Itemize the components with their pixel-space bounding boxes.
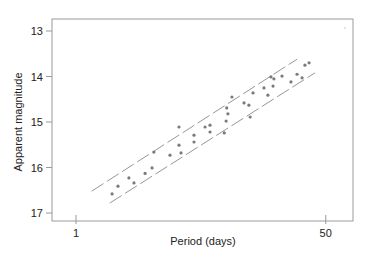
lower-bound-line xyxy=(110,73,315,203)
data-point xyxy=(295,73,298,76)
data-point xyxy=(223,131,226,134)
upper-bound-line xyxy=(92,59,297,191)
data-point xyxy=(247,104,250,107)
data-point xyxy=(303,64,306,67)
x-axis-title: Period (days) xyxy=(170,235,235,247)
data-point xyxy=(192,134,195,137)
x-tick-label: 50 xyxy=(320,227,332,239)
data-point xyxy=(208,130,211,133)
data-point xyxy=(272,77,275,80)
data-points xyxy=(110,61,310,195)
data-point xyxy=(242,101,245,104)
y-tick-label: 14 xyxy=(31,71,43,83)
data-point xyxy=(179,151,182,154)
data-point xyxy=(150,166,153,169)
data-point xyxy=(127,176,130,179)
y-tick-label: 15 xyxy=(31,116,43,128)
data-point xyxy=(226,112,229,115)
data-point xyxy=(208,124,211,127)
y-tick-label: 13 xyxy=(31,25,43,37)
data-point xyxy=(230,95,233,98)
data-point xyxy=(271,84,274,87)
y-tick-label: 16 xyxy=(31,162,43,174)
data-point xyxy=(266,94,269,97)
x-tick-label: 1 xyxy=(73,227,79,239)
data-point xyxy=(289,80,292,83)
data-point xyxy=(251,91,254,94)
data-point xyxy=(269,75,272,78)
y-axis-ticks: 1314151617 xyxy=(31,25,52,219)
data-point xyxy=(249,115,252,118)
data-point xyxy=(225,106,228,109)
y-tick-label: 17 xyxy=(31,207,43,219)
data-point xyxy=(300,76,303,79)
data-point xyxy=(307,61,310,64)
bound-lines xyxy=(92,59,315,203)
data-point xyxy=(168,154,171,157)
data-point xyxy=(192,140,195,143)
data-point xyxy=(280,74,283,77)
data-point xyxy=(116,185,119,188)
data-point xyxy=(152,150,155,153)
speck-artifact xyxy=(344,27,345,28)
data-point xyxy=(177,144,180,147)
data-point xyxy=(132,181,135,184)
chart: 1314151617 150 Period (days) Apparent ma… xyxy=(0,0,377,261)
data-point xyxy=(203,125,206,128)
data-point xyxy=(225,119,228,122)
data-point xyxy=(262,86,265,89)
data-point xyxy=(110,192,113,195)
y-axis-title: Apparent magnitude xyxy=(12,72,24,171)
data-point xyxy=(143,172,146,175)
data-point xyxy=(177,125,180,128)
